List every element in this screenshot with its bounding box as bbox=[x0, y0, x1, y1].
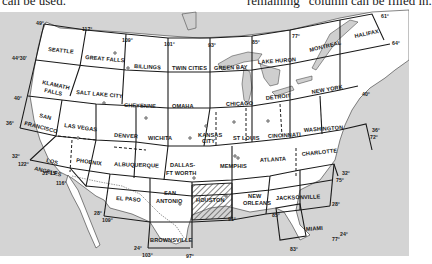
deg-32-right: 32° bbox=[342, 170, 350, 176]
label-chicago: CHICAGO bbox=[226, 100, 254, 107]
deg-28-left: 28° bbox=[94, 210, 102, 216]
deg-85-bottom: 85° bbox=[272, 212, 280, 218]
label-orleans: ORLEANS bbox=[243, 200, 271, 206]
deg-24-left: 24° bbox=[134, 245, 142, 251]
deg-77-bottom: 77° bbox=[332, 236, 340, 242]
deg-101: 101° bbox=[164, 41, 175, 47]
deg-44-30: 44°30' bbox=[12, 55, 27, 61]
label-denver: DENVER bbox=[114, 132, 138, 139]
deg-28-right: 28° bbox=[332, 201, 340, 207]
deg-93: 93° bbox=[208, 42, 216, 48]
deg-117: 117° bbox=[82, 26, 92, 32]
deg-36-right: 36° bbox=[372, 127, 380, 133]
deg-103: 103° bbox=[142, 252, 153, 258]
label-houston: HOUSTON bbox=[196, 197, 225, 203]
deg-97: 97° bbox=[186, 253, 194, 259]
deg-32-left: 32° bbox=[12, 153, 20, 159]
deg-109-top: 109° bbox=[122, 37, 133, 43]
deg-64: 64° bbox=[392, 40, 400, 46]
deg-40-right: 40° bbox=[362, 91, 370, 97]
deg-24-right: 24° bbox=[340, 231, 348, 237]
label-san-antonio-1: SAN bbox=[164, 190, 176, 196]
label-ft-worth: FT WORTH bbox=[166, 170, 196, 176]
label-brownsville: BROWNSVILLE bbox=[150, 237, 193, 243]
label-miami: MIAMI bbox=[306, 225, 324, 232]
label-omaha: OMAHA bbox=[172, 103, 194, 109]
label-new: NEW bbox=[248, 193, 262, 199]
deg-31-15: 31°15' bbox=[42, 170, 57, 176]
deg-116: 116° bbox=[56, 180, 66, 186]
label-twin-cities: TWIN CITIES bbox=[172, 65, 207, 71]
label-green-bay: GREEN BAY bbox=[214, 64, 248, 71]
deg-36-left: 36° bbox=[6, 120, 14, 126]
label-dallas: DALLAS- bbox=[170, 162, 195, 168]
deg-40-left: 40° bbox=[14, 95, 22, 101]
deg-61: 61° bbox=[381, 13, 389, 19]
deg-85-top: 85° bbox=[252, 39, 260, 45]
deg-72: 72° bbox=[370, 134, 378, 140]
label-wichita: WICHITA bbox=[148, 135, 172, 141]
label-city: CITY bbox=[202, 138, 215, 144]
label-cheyenne: CHEYENNE bbox=[124, 102, 156, 109]
deg-77: 77° bbox=[292, 33, 300, 39]
deg-49: 49° bbox=[36, 20, 44, 26]
deg-91: 91° bbox=[228, 216, 236, 222]
label-memphis: MEMPHIS bbox=[220, 163, 247, 169]
deg-122: 122° bbox=[18, 161, 29, 167]
deg-83: 83° bbox=[290, 246, 298, 252]
deg-109-bottom: 109° bbox=[102, 217, 113, 223]
deg-75: 75° bbox=[336, 177, 344, 183]
label-louis: LOUIS bbox=[242, 135, 260, 141]
label-st: ST bbox=[233, 135, 241, 141]
